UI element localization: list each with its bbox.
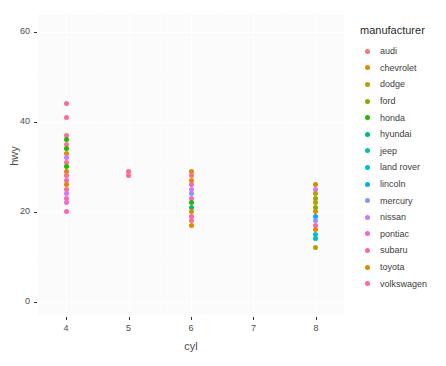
gridline-minor-vertical bbox=[97, 14, 98, 315]
gridline-major-vertical bbox=[191, 14, 192, 315]
legend-item-land-rover[interactable]: land rover bbox=[360, 159, 446, 176]
y-tick-mark bbox=[34, 32, 37, 33]
legend-item-audi[interactable]: audi bbox=[360, 43, 446, 60]
legend-color-swatch bbox=[365, 248, 370, 253]
data-point bbox=[313, 236, 318, 241]
x-tick-label: 8 bbox=[306, 324, 326, 333]
legend-color-swatch bbox=[365, 265, 370, 270]
legend-item-label: land rover bbox=[380, 162, 420, 172]
legend-item-label: ford bbox=[380, 96, 396, 106]
gridline-major-vertical bbox=[253, 14, 254, 315]
legend-key-icon bbox=[360, 260, 374, 274]
gridline-minor-vertical bbox=[222, 14, 223, 315]
data-point bbox=[64, 101, 69, 106]
legend-color-swatch bbox=[365, 182, 370, 187]
gridline-minor-vertical bbox=[285, 14, 286, 315]
legend-color-swatch bbox=[365, 148, 370, 153]
legend-color-swatch bbox=[365, 165, 370, 170]
data-point bbox=[126, 173, 131, 178]
legend-color-swatch bbox=[365, 215, 370, 220]
y-tick-label: 0 bbox=[2, 297, 30, 306]
legend-item-subaru[interactable]: subaru bbox=[360, 242, 446, 259]
legend-item-toyota[interactable]: toyota bbox=[360, 259, 446, 276]
y-tick-mark bbox=[34, 212, 37, 213]
legend-key-icon bbox=[360, 243, 374, 257]
x-tick-mark bbox=[316, 317, 317, 320]
data-point bbox=[64, 209, 69, 214]
legend-item-hyundai[interactable]: hyundai bbox=[360, 126, 446, 143]
data-point bbox=[64, 200, 69, 205]
legend-item-volkswagen[interactable]: volkswagen bbox=[360, 275, 446, 292]
legend-color-swatch bbox=[365, 49, 370, 54]
legend-color-swatch bbox=[365, 65, 370, 70]
x-axis-title: cyl bbox=[38, 340, 344, 352]
legend-item-nissan[interactable]: nissan bbox=[360, 209, 446, 226]
legend-item-jeep[interactable]: jeep bbox=[360, 143, 446, 160]
legend-item-label: volkswagen bbox=[380, 279, 427, 289]
x-tick-label: 5 bbox=[119, 324, 139, 333]
legend-item-label: honda bbox=[380, 113, 405, 123]
y-tick-label: 40 bbox=[2, 117, 30, 126]
x-tick-mark bbox=[129, 317, 130, 320]
y-tick-label: 60 bbox=[2, 27, 30, 36]
chart-container: 0204060 45678 cyl hwy manufacturer audic… bbox=[0, 0, 446, 366]
data-point bbox=[189, 223, 194, 228]
legend-item-label: hyundai bbox=[380, 129, 412, 139]
x-tick-mark bbox=[191, 317, 192, 320]
legend-key-icon bbox=[360, 127, 374, 141]
legend-item-label: audi bbox=[380, 46, 397, 56]
legend-key-icon bbox=[360, 44, 374, 58]
y-tick-mark bbox=[34, 302, 37, 303]
legend-color-swatch bbox=[365, 132, 370, 137]
gridline-major-vertical bbox=[316, 14, 317, 315]
legend-color-swatch bbox=[365, 115, 370, 120]
legend-color-swatch bbox=[365, 281, 370, 286]
y-axis-title: hwy bbox=[8, 126, 20, 186]
legend-item-label: nissan bbox=[380, 212, 406, 222]
legend-item-honda[interactable]: honda bbox=[360, 109, 446, 126]
legend-item-label: mercury bbox=[380, 196, 413, 206]
gridline-major-vertical bbox=[129, 14, 130, 315]
legend-key-icon bbox=[360, 160, 374, 174]
x-tick-mark bbox=[253, 317, 254, 320]
legend-title: manufacturer bbox=[360, 24, 446, 36]
legend-item-mercury[interactable]: mercury bbox=[360, 192, 446, 209]
y-tick-label: 20 bbox=[2, 207, 30, 216]
legend-key-icon bbox=[360, 77, 374, 91]
data-point bbox=[64, 115, 69, 120]
legend-item-ford[interactable]: ford bbox=[360, 93, 446, 110]
legend-item-label: subaru bbox=[380, 245, 408, 255]
legend-key-icon bbox=[360, 210, 374, 224]
legend-item-label: lincoln bbox=[380, 179, 406, 189]
x-tick-label: 4 bbox=[56, 324, 76, 333]
plot-panel bbox=[38, 14, 344, 315]
gridline-minor-vertical bbox=[160, 14, 161, 315]
legend-item-dodge[interactable]: dodge bbox=[360, 76, 446, 93]
legend-key-icon bbox=[360, 177, 374, 191]
legend-key-icon bbox=[360, 227, 374, 241]
legend-color-swatch bbox=[365, 231, 370, 236]
legend-item-lincoln[interactable]: lincoln bbox=[360, 176, 446, 193]
legend-color-swatch bbox=[365, 82, 370, 87]
data-point bbox=[313, 245, 318, 250]
y-tick-mark bbox=[34, 122, 37, 123]
legend-key-icon bbox=[360, 61, 374, 75]
legend-item-label: chevrolet bbox=[380, 63, 417, 73]
legend-key-icon bbox=[360, 194, 374, 208]
legend-item-chevrolet[interactable]: chevrolet bbox=[360, 60, 446, 77]
legend-item-label: pontiac bbox=[380, 229, 409, 239]
legend-color-swatch bbox=[365, 99, 370, 104]
legend: manufacturer audichevroletdodgefordhonda… bbox=[360, 24, 446, 292]
x-tick-label: 7 bbox=[243, 324, 263, 333]
x-tick-label: 6 bbox=[181, 324, 201, 333]
legend-item-pontiac[interactable]: pontiac bbox=[360, 226, 446, 243]
legend-key-icon bbox=[360, 144, 374, 158]
x-tick-mark bbox=[66, 317, 67, 320]
legend-key-icon bbox=[360, 277, 374, 291]
legend-key-icon bbox=[360, 111, 374, 125]
legend-item-label: jeep bbox=[380, 146, 397, 156]
legend-key-icon bbox=[360, 94, 374, 108]
legend-item-label: dodge bbox=[380, 79, 405, 89]
legend-color-swatch bbox=[365, 198, 370, 203]
legend-items: audichevroletdodgefordhondahyundaijeepla… bbox=[360, 43, 446, 292]
